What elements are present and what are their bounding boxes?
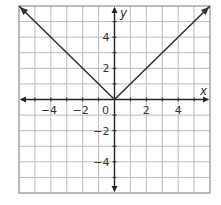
x-axis-left-arrow-icon [20,97,26,103]
chart: −4−202442−2−4 x y [0,0,221,205]
y-tick-label: −2 [93,125,109,138]
x-tick-label: −4 [41,104,57,117]
y-tick-label: −4 [93,156,109,169]
y-axis-up-arrow-icon [112,7,118,13]
origin-label: 0 [102,104,109,117]
y-tick-label: 4 [103,31,110,44]
x-tick-label: −2 [73,104,89,117]
x-tick-label: 4 [175,104,182,117]
y-tick-label: 2 [103,62,110,75]
y-axis-down-arrow-icon [112,186,118,192]
x-axis-label: x [199,84,208,98]
x-tick-label: 2 [143,104,150,117]
y-axis-label: y [119,6,128,20]
